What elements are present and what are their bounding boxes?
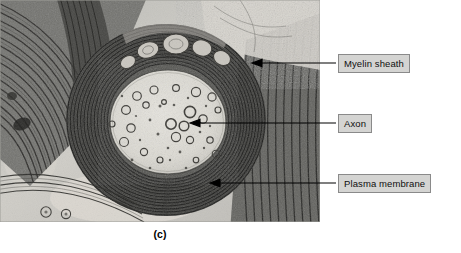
figure-panel: Myelin sheath Axon Plasma membrane (c) bbox=[0, 0, 461, 253]
label-axon: Axon bbox=[338, 114, 372, 133]
label-myelin-sheath: Myelin sheath bbox=[338, 54, 410, 73]
micrograph-content bbox=[0, 0, 320, 222]
film-grain bbox=[0, 0, 320, 222]
figure-caption: (c) bbox=[0, 228, 320, 240]
electron-micrograph bbox=[0, 0, 320, 222]
micrograph-canvas bbox=[0, 0, 320, 222]
label-plasma-membrane: Plasma membrane bbox=[338, 174, 431, 193]
